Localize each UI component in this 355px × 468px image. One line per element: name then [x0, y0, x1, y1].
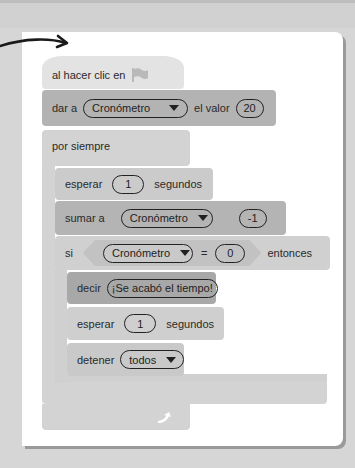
- stop-block-label: detener: [77, 354, 114, 366]
- equals-operator: =: [201, 247, 207, 259]
- change-block-label: sumar a: [65, 212, 105, 224]
- variable-dropdown[interactable]: Cronómetro: [83, 99, 188, 118]
- if-block-label: si: [65, 247, 73, 259]
- forever-block-footer: [42, 404, 190, 430]
- forever-block-label: por siempre: [52, 140, 110, 152]
- forever-block-arm: [42, 164, 55, 396]
- dropdown-arrow-icon: [169, 105, 179, 111]
- compare-value-input[interactable]: 0: [215, 244, 245, 263]
- set-value-input[interactable]: 20: [236, 99, 264, 118]
- if-then-block[interactable]: si Cronómetro = 0 entonces: [55, 236, 330, 270]
- wait-block-label: esperar: [65, 178, 102, 190]
- when-flag-clicked-block[interactable]: al hacer clic en: [42, 56, 184, 89]
- then-label: entonces: [267, 247, 312, 259]
- dropdown-arrow-icon: [166, 357, 176, 363]
- change-variable-dropdown[interactable]: Cronómetro: [121, 209, 213, 228]
- say-block[interactable]: decir ¡Se acabó el tiempo!: [67, 272, 216, 304]
- variable-dropdown-value: Cronómetro: [92, 102, 150, 114]
- condition-variable-value: Cronómetro: [112, 247, 170, 259]
- wait-seconds-input[interactable]: 1: [112, 175, 144, 194]
- say-message-input[interactable]: ¡Se acabó el tiempo!: [107, 279, 218, 298]
- wait-unit-label-2: segundos: [166, 318, 214, 330]
- stop-block[interactable]: detener todos: [67, 343, 184, 376]
- stop-option-dropdown[interactable]: todos: [120, 350, 184, 369]
- loop-arrow-icon: [158, 411, 174, 423]
- condition-variable-dropdown[interactable]: Cronómetro: [103, 244, 193, 263]
- set-variable-block[interactable]: dar a Cronómetro el valor 20: [42, 90, 276, 126]
- if-block-arm: [55, 268, 67, 383]
- hat-block-label: al hacer clic en: [52, 69, 125, 81]
- stop-option-value: todos: [129, 354, 156, 366]
- wait-block[interactable]: esperar 1 segundos: [55, 168, 213, 200]
- set-block-label: dar a: [52, 102, 77, 114]
- wait-seconds-input-2[interactable]: 1: [124, 314, 156, 333]
- forever-block-bottom: [42, 380, 327, 404]
- dropdown-arrow-icon: [198, 215, 208, 221]
- wait-block-2-label: esperar: [77, 318, 114, 330]
- forever-block[interactable]: por siempre: [42, 130, 190, 166]
- wait-block-2[interactable]: esperar 1 segundos: [67, 307, 224, 340]
- equals-condition[interactable]: Cronómetro = 0: [83, 240, 261, 266]
- change-variable-block[interactable]: sumar a Cronómetro -1: [55, 201, 286, 235]
- top-band: [0, 0, 355, 28]
- set-block-to-label: el valor: [194, 102, 229, 114]
- change-value-input[interactable]: -1: [239, 209, 267, 228]
- wait-unit-label: segundos: [154, 178, 202, 190]
- green-flag-icon: [131, 68, 149, 82]
- say-block-label: decir: [77, 282, 101, 294]
- change-variable-value: Cronómetro: [130, 212, 188, 224]
- dropdown-arrow-icon: [180, 250, 190, 256]
